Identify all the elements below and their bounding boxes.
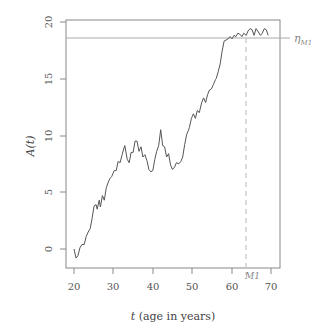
- y-tick-labels: 0 5 10 15 20: [43, 16, 54, 253]
- x-axis-title: t (age in years): [131, 310, 215, 323]
- m1-label: M1: [244, 271, 260, 281]
- y-tick-label: 5: [43, 189, 54, 195]
- x-tick-label: 70: [265, 281, 278, 292]
- y-axis-title: A(t): [24, 136, 37, 158]
- eta-threshold-label: ηM1: [294, 32, 312, 47]
- line-chart: 0 5 10 15 20 20 30 40 50 60 70 ηM1 M1 A(…: [0, 0, 324, 336]
- x-tick-label: 40: [147, 281, 160, 292]
- x-tick-label: 30: [107, 281, 120, 292]
- x-axis: [74, 268, 271, 274]
- x-tick-labels: 20 30 40 50 60 70: [68, 281, 278, 292]
- series-line: [74, 29, 268, 259]
- y-tick-label: 15: [43, 73, 54, 86]
- y-tick-label: 20: [43, 16, 54, 29]
- x-tick-label: 50: [186, 281, 199, 292]
- y-tick-label: 0: [43, 246, 54, 252]
- x-tick-label: 60: [226, 281, 239, 292]
- x-tick-label: 20: [68, 281, 81, 292]
- y-axis: [60, 22, 66, 249]
- y-tick-label: 10: [43, 130, 54, 143]
- plot-frame: [66, 20, 280, 268]
